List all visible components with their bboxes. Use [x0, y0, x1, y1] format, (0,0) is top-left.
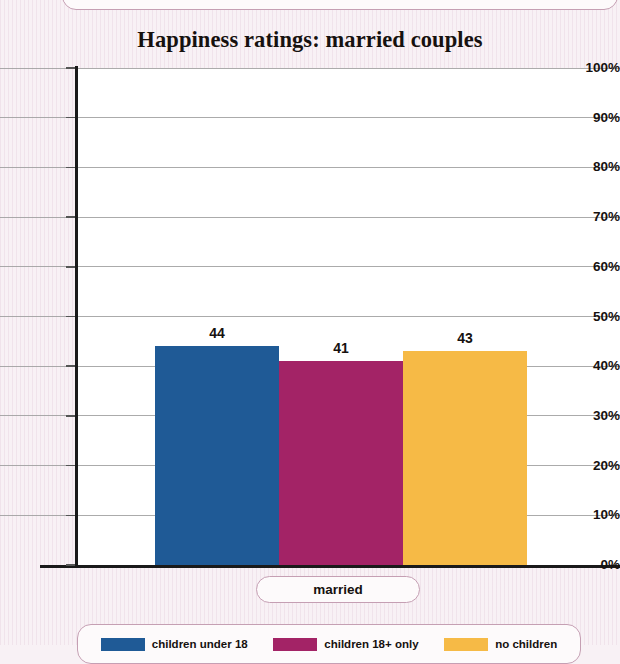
y-axis-tick-label: 40%	[554, 358, 620, 373]
legend: children under 18children 18+ onlyno chi…	[77, 624, 581, 664]
bar-value-label: 41	[279, 340, 403, 356]
y-axis-tick-mark	[66, 316, 75, 318]
y-axis-tick-mark	[66, 67, 75, 69]
y-axis-line	[75, 66, 78, 567]
bar[interactable]	[279, 361, 403, 565]
y-axis-tick-mark	[66, 167, 75, 169]
x-axis-baseline	[40, 565, 620, 568]
y-axis-tick-label: 20%	[554, 458, 620, 473]
y-axis-tick-label: 60%	[554, 259, 620, 274]
y-axis-tick-mark	[66, 465, 75, 467]
y-axis-tick-mark	[66, 117, 75, 119]
legend-label: children under 18	[152, 638, 248, 650]
y-axis-tick-label: 70%	[554, 209, 620, 224]
y-axis-tick-label: 30%	[554, 408, 620, 423]
top-cropped-pill-box	[62, 0, 618, 10]
legend-swatch-icon	[444, 638, 488, 651]
y-axis-tick-mark	[66, 216, 75, 218]
bar-value-label: 43	[403, 330, 527, 346]
legend-item[interactable]: children under 18	[101, 638, 248, 651]
chart-title: Happiness ratings: married couples	[0, 27, 620, 53]
y-axis-tick-label: 80%	[554, 159, 620, 174]
y-axis-tick-label: 50%	[554, 309, 620, 324]
y-axis-tick-mark	[66, 365, 75, 367]
y-axis-tick-label: 10%	[554, 507, 620, 522]
legend-swatch-icon	[101, 638, 145, 651]
y-axis-tick-label: 100%	[554, 60, 620, 75]
legend-item[interactable]: children 18+ only	[273, 638, 418, 651]
legend-label: children 18+ only	[324, 638, 418, 650]
x-axis-category-label: married	[313, 582, 363, 597]
y-axis-tick-label: 0%	[554, 557, 620, 572]
bar[interactable]	[155, 346, 279, 565]
y-axis-tick-mark	[66, 415, 75, 417]
legend-swatch-icon	[273, 638, 317, 651]
legend-item[interactable]: no children	[444, 638, 557, 651]
y-axis-tick-mark	[66, 266, 75, 268]
x-axis-category-pill: married	[256, 576, 420, 603]
y-axis-tick-label: 90%	[554, 110, 620, 125]
legend-label: no children	[495, 638, 557, 650]
bar[interactable]	[403, 351, 527, 565]
y-axis-tick-mark	[66, 564, 75, 566]
bar-value-label: 44	[155, 325, 279, 341]
y-axis-tick-mark	[66, 515, 75, 517]
